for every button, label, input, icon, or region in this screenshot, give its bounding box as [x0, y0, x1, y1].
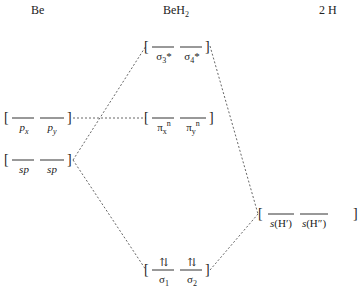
bracket-close: ] — [205, 40, 210, 54]
bracket-close: ] — [67, 111, 72, 125]
bracket-close: ] — [205, 263, 210, 277]
dash-sp-to-antibonding — [73, 46, 146, 160]
electron-pair-sigma1: ⇅ — [152, 257, 176, 268]
bracket-open: [ — [144, 111, 149, 125]
bracket-open: [ — [144, 263, 149, 277]
connector-lines — [0, 0, 361, 294]
orbital-label-sH1: s(H′) — [264, 217, 298, 229]
electron-pair-sigma2: ⇅ — [180, 257, 204, 268]
bracket-close: ] — [353, 207, 358, 221]
column-title-be: Be — [31, 4, 44, 16]
orbital-label-sigma4-star: σ4* — [180, 50, 204, 65]
bracket-open: [ — [258, 207, 263, 221]
bracket-open: [ — [144, 40, 149, 54]
orbital-label-pi-y-n: πyn — [180, 119, 206, 136]
orbital-label-pi-x-n: πxn — [151, 119, 177, 136]
bracket-open: [ — [4, 111, 9, 125]
orbital-label-sH2: s(H″) — [296, 217, 332, 229]
orbital-label-py: py — [40, 121, 64, 136]
bracket-close: ] — [209, 111, 214, 125]
column-title-beh2: BeH2 — [163, 4, 189, 21]
orbital-label-sigma3-star: σ3* — [152, 50, 176, 65]
dash-sp-to-bonding — [73, 160, 146, 270]
bracket-open: [ — [4, 153, 9, 167]
dash-bonding-to-H — [210, 214, 258, 270]
orbital-label-sigma2: σ2 — [180, 273, 204, 288]
dash-antibonding-to-H — [210, 46, 258, 214]
orbital-label-sp1: sp — [12, 163, 36, 175]
orbital-label-px: px — [12, 121, 36, 136]
orbital-label-sigma1: σ1 — [152, 273, 176, 288]
orbital-label-sp2: sp — [40, 163, 64, 175]
bracket-close: ] — [67, 153, 72, 167]
column-title-2h: 2 H — [319, 4, 337, 16]
